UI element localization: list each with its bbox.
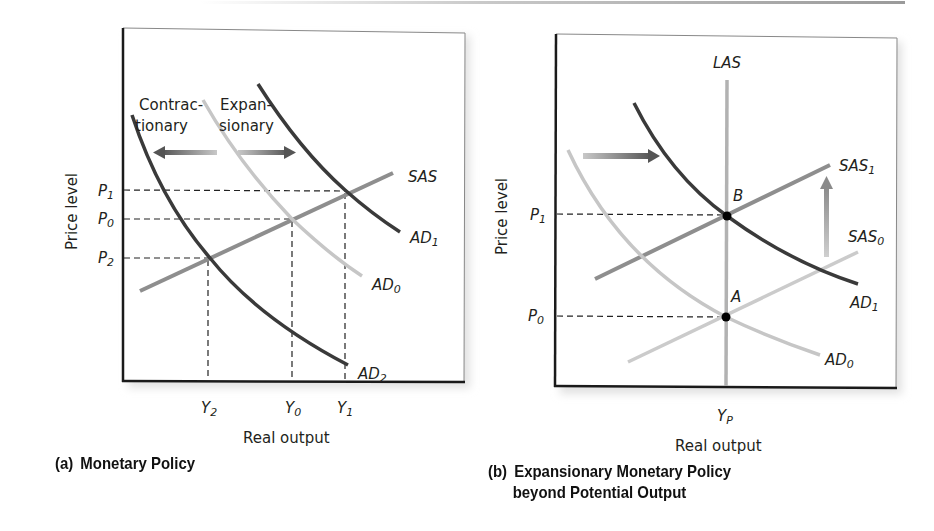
tick-y0: Y0 bbox=[285, 399, 301, 419]
panel-a-x-axis bbox=[122, 381, 465, 382]
x-axis-label-a: Real output bbox=[243, 429, 330, 447]
label-las: LAS bbox=[713, 54, 742, 72]
panel-b-y-axis bbox=[555, 34, 556, 387]
tick-p1-b: P1 bbox=[530, 206, 546, 226]
tick-y1: Y1 bbox=[337, 399, 353, 419]
caption-a-text: Monetary Policy bbox=[80, 454, 195, 473]
label-expansionary-1: Expan- bbox=[220, 96, 272, 114]
x-axis-label-b: Real output bbox=[675, 437, 762, 455]
tick-yp: YP bbox=[717, 407, 733, 427]
y-axis-label-a: Price level bbox=[63, 173, 81, 250]
panel-a: Contrac- tionary Expan- sionary SAS AD1 … bbox=[63, 28, 470, 447]
label-point-a: A bbox=[730, 288, 741, 306]
tick-y2: Y2 bbox=[201, 399, 217, 419]
caption-b-tag: (b) bbox=[488, 462, 507, 481]
caption-b: (b)Expansionary Monetary Policy beyond P… bbox=[488, 461, 731, 503]
tick-p0-b: P0 bbox=[528, 307, 544, 327]
label-contractionary-2: tionary bbox=[135, 117, 188, 135]
tick-p1: P1 bbox=[98, 182, 114, 202]
point-a bbox=[722, 313, 731, 322]
label-point-b: B bbox=[733, 187, 743, 205]
caption-a: (a)Monetary Policy bbox=[55, 453, 195, 474]
caption-a-tag: (a) bbox=[55, 454, 73, 473]
label-sas: SAS bbox=[408, 168, 438, 186]
label-contractionary-1: Contrac- bbox=[139, 96, 203, 114]
caption-b-line1: Expansionary Monetary Policy bbox=[514, 462, 731, 481]
caption-b-line2: beyond Potential Output bbox=[488, 482, 731, 503]
panel-a-plot-area bbox=[123, 28, 465, 381]
label-expansionary-2: sionary bbox=[219, 117, 274, 135]
point-b bbox=[723, 212, 732, 221]
panel-b: B A LAS SAS1 SAS0 AD1 AD0 P1 P0 YP Real … bbox=[493, 34, 902, 455]
curve-las bbox=[726, 80, 727, 386]
tick-p2: P2 bbox=[98, 249, 114, 269]
tick-p0: P0 bbox=[98, 210, 114, 230]
y-axis-label-b: Price level bbox=[493, 178, 511, 255]
figure: Contrac- tionary Expan- sionary SAS AD1 … bbox=[0, 0, 934, 531]
